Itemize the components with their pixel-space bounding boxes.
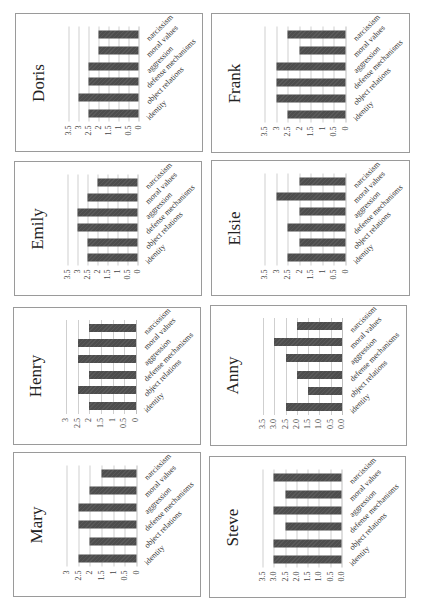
- y-tick-label: 0.0: [338, 419, 346, 439]
- bar-slot: defense mechanisms: [264, 74, 345, 90]
- bar-moral-values: [89, 486, 136, 494]
- bar-defense-mechanisms: [77, 223, 137, 231]
- y-tick-label: 2.0: [293, 419, 301, 439]
- bar-identity: [273, 555, 341, 563]
- y-tick-label: 3: [74, 125, 82, 145]
- bar-moral-values: [276, 192, 345, 200]
- plot-area: 00.511.522.533.5 identityobject relation…: [67, 174, 137, 265]
- y-tick-label: 2.5: [283, 126, 291, 146]
- plot-area: 00.511.522.53 identityobject relationsde…: [66, 320, 136, 414]
- bar-aggression: [276, 62, 345, 70]
- bar-narcissism: [98, 30, 138, 38]
- plot-area: 00.511.522.533.5 identityobject relation…: [264, 26, 345, 122]
- bar-slot: moral values: [264, 188, 345, 203]
- bar-slot: defense mechanisms: [67, 219, 137, 234]
- y-tick-label: 1: [109, 570, 117, 590]
- y-tick-label: 2: [295, 269, 303, 289]
- bar-slot: aggression: [66, 499, 136, 516]
- chart-panel-frank: Frank 00.511.522.533.5 identityobject re…: [211, 13, 410, 153]
- chart-panel-emily: Emily 00.511.522.533.5 identityobject re…: [14, 161, 202, 296]
- gridline: [342, 318, 343, 415]
- bar-slot: object relations: [263, 383, 342, 399]
- bar-slot: narcissism: [264, 173, 345, 188]
- y-tick-label: 0: [133, 269, 141, 289]
- bar-identity: [88, 109, 138, 117]
- bar-aggression: [88, 62, 138, 70]
- y-tick-label: 0.5: [326, 571, 334, 591]
- bar-narcissism: [287, 30, 345, 38]
- bar-slot: identity: [67, 250, 137, 265]
- y-tick-label: 0: [341, 269, 349, 289]
- bar-slot: aggression: [264, 204, 345, 219]
- y-tick-label: 1.5: [97, 418, 105, 438]
- y-tick-label: 1.5: [306, 126, 314, 146]
- bar-chart: Steve 0.00.51.01.52.02.53.03.5 identityo…: [210, 457, 405, 597]
- bar-identity: [286, 403, 342, 411]
- bar-slot: identity: [263, 399, 342, 415]
- y-tick-label: 3.5: [259, 419, 267, 439]
- y-tick-label: 0.5: [329, 269, 337, 289]
- bar-slot: moral values: [66, 482, 136, 499]
- bar-narcissism: [273, 473, 341, 481]
- bar-defense-mechanisms: [285, 522, 341, 530]
- bar-identity: [89, 402, 136, 410]
- bar-narcissism: [89, 324, 136, 332]
- bar-series: identityobject relationsdefense mechanis…: [66, 465, 136, 566]
- chart-title: Doris: [28, 14, 48, 151]
- bar-slot: narcissism: [66, 320, 136, 336]
- bar-slot: object relations: [68, 89, 138, 105]
- bar-slot: moral values: [264, 42, 345, 58]
- bar-slot: identity: [262, 551, 341, 567]
- bar-object-relations: [78, 93, 138, 101]
- bar-moral-values: [87, 193, 137, 201]
- bar-slot: identity: [66, 398, 136, 414]
- bar-slot: aggression: [66, 351, 136, 367]
- y-tick-label: 1: [113, 269, 121, 289]
- bar-chart: Doris 00.511.522.533.5 identityobject re…: [16, 14, 202, 151]
- chart-panel-henry: Henry 00.511.522.53 identityobject relat…: [13, 307, 201, 445]
- bar-narcissism: [101, 469, 136, 477]
- bar-slot: object relations: [66, 532, 136, 549]
- bar-object-relations: [273, 539, 341, 547]
- y-tick-label: 2.5: [74, 570, 82, 590]
- y-tick-label: 1.5: [306, 269, 314, 289]
- bar-slot: aggression: [67, 204, 137, 219]
- bar-slot: identity: [68, 105, 138, 121]
- bar-slot: moral values: [66, 336, 136, 352]
- chart-title: Anny: [223, 306, 243, 445]
- bar-chart: Emily 00.511.522.533.5 identityobject re…: [15, 162, 201, 295]
- bar-slot: moral values: [263, 334, 342, 350]
- bar-object-relations: [276, 94, 345, 102]
- chart-title: Mary: [26, 453, 46, 596]
- bar-narcissism: [299, 177, 345, 185]
- y-tick-label: 2.5: [84, 125, 92, 145]
- bar-series: identityobject relationsdefense mechanis…: [68, 26, 138, 121]
- bar-moral-values: [98, 46, 138, 54]
- y-tick-label: 2.5: [74, 418, 82, 438]
- y-tick-label: 0.5: [327, 419, 335, 439]
- y-tick-label: 3.5: [260, 269, 268, 289]
- bar-slot: narcissism: [66, 465, 136, 482]
- bar-slot: narcissism: [67, 174, 137, 189]
- bar-chart: Anny 0.00.51.01.52.02.53.03.5 identityob…: [211, 306, 406, 445]
- y-tick-label: 3: [272, 269, 280, 289]
- bar-slot: object relations: [264, 234, 345, 249]
- chart-panel-mary: Mary 00.511.522.53 identityobject relati…: [13, 452, 201, 597]
- y-tick-label: 0.5: [123, 269, 131, 289]
- y-tick-label: 1: [109, 418, 117, 438]
- y-tick-label: 0: [341, 126, 349, 146]
- bar-aggression: [286, 354, 342, 362]
- bar-slot: defense mechanisms: [66, 367, 136, 383]
- bar-slot: moral values: [67, 189, 137, 204]
- bar-moral-values: [285, 490, 341, 498]
- chart-title: Emily: [27, 162, 47, 295]
- y-tick-label: 2: [295, 126, 303, 146]
- y-tick-label: 0.5: [124, 125, 132, 145]
- y-tick-label: 3.0: [270, 419, 278, 439]
- bar-defense-mechanisms: [276, 78, 345, 86]
- y-tick-label: 3.5: [63, 269, 71, 289]
- y-tick-label: 0.5: [120, 570, 128, 590]
- y-tick-label: 3: [62, 570, 70, 590]
- bar-slot: identity: [66, 549, 136, 566]
- bar-identity: [287, 110, 345, 118]
